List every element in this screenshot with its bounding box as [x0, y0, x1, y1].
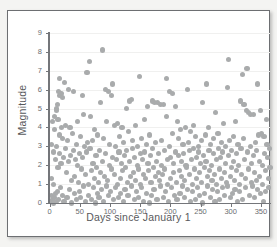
data-point [130, 138, 135, 143]
data-point [60, 95, 65, 100]
data-point [101, 136, 106, 141]
gridline-horizontal [50, 90, 271, 91]
data-point [51, 182, 56, 187]
data-point [261, 134, 266, 139]
data-point [203, 132, 208, 137]
data-point [100, 159, 105, 164]
y-tick-mark [46, 127, 49, 128]
data-point [188, 129, 193, 134]
data-point [223, 144, 228, 149]
data-point [131, 170, 136, 175]
data-point [104, 183, 109, 188]
data-point [148, 153, 153, 158]
data-point [95, 132, 100, 137]
scatter-plot-figure: 0123456789 050100150200250300350 Magnitu… [0, 0, 277, 247]
data-point [220, 149, 225, 154]
data-point [232, 178, 237, 183]
data-point [184, 165, 189, 170]
data-point [248, 144, 253, 149]
data-point [53, 157, 58, 162]
data-point [162, 148, 167, 153]
gridline-horizontal [50, 52, 271, 53]
data-point [258, 108, 263, 113]
data-point [72, 174, 77, 179]
data-point [124, 106, 129, 111]
data-point [258, 191, 263, 196]
y-tick-mark [46, 90, 49, 91]
data-point [125, 193, 130, 198]
data-point [243, 185, 248, 190]
data-point [185, 87, 190, 92]
data-point [93, 153, 98, 158]
data-point [173, 104, 178, 109]
data-point [160, 172, 165, 177]
data-point [164, 114, 169, 119]
data-point [217, 166, 222, 171]
data-point [203, 159, 208, 164]
x-axis-line [49, 203, 271, 205]
data-point [249, 161, 254, 166]
y-tick-label: 7 [30, 67, 42, 75]
data-point [202, 191, 207, 196]
data-point [226, 153, 231, 158]
data-point [100, 47, 105, 52]
data-point [91, 185, 96, 190]
data-point [252, 170, 257, 175]
data-point [129, 97, 134, 102]
data-point [211, 151, 216, 156]
data-point [156, 151, 161, 156]
data-point [151, 187, 156, 192]
data-point [202, 165, 207, 170]
data-point [238, 146, 243, 151]
data-point [182, 195, 187, 200]
data-point [150, 146, 155, 151]
data-point [127, 159, 132, 164]
data-point [260, 163, 265, 168]
data-point [233, 119, 238, 124]
data-point [245, 149, 250, 154]
data-point [264, 117, 269, 122]
data-point [144, 191, 149, 196]
data-point [243, 176, 248, 181]
data-point [103, 151, 108, 156]
data-point [55, 102, 60, 107]
data-point [50, 119, 55, 124]
data-point [87, 146, 92, 151]
data-point [241, 136, 246, 141]
data-point [211, 136, 216, 141]
data-point [237, 182, 242, 187]
data-point [94, 165, 99, 170]
data-point [227, 138, 232, 143]
data-point [225, 85, 230, 90]
data-point [116, 149, 121, 154]
data-point [157, 178, 162, 183]
data-point [209, 163, 214, 168]
data-point [180, 142, 185, 147]
data-point [177, 168, 182, 173]
data-point [186, 140, 191, 145]
y-tick-label: 3 [30, 142, 42, 150]
data-point [164, 76, 169, 81]
data-point [112, 172, 117, 177]
data-point [260, 182, 265, 187]
data-point [149, 193, 154, 198]
data-point [84, 70, 89, 75]
data-point [175, 119, 180, 124]
data-point [201, 153, 206, 158]
data-point [163, 189, 168, 194]
data-point [181, 151, 186, 156]
data-point [231, 134, 236, 139]
data-point [87, 59, 92, 64]
data-point [67, 125, 72, 130]
data-point [66, 159, 71, 164]
y-tick-mark [46, 165, 49, 166]
data-point [251, 112, 256, 117]
data-point [193, 134, 198, 139]
data-point [147, 132, 152, 137]
data-point [142, 149, 147, 154]
data-point [168, 155, 173, 160]
data-point [267, 165, 272, 170]
data-point [62, 80, 67, 85]
data-point [195, 185, 200, 190]
data-point [109, 93, 114, 98]
